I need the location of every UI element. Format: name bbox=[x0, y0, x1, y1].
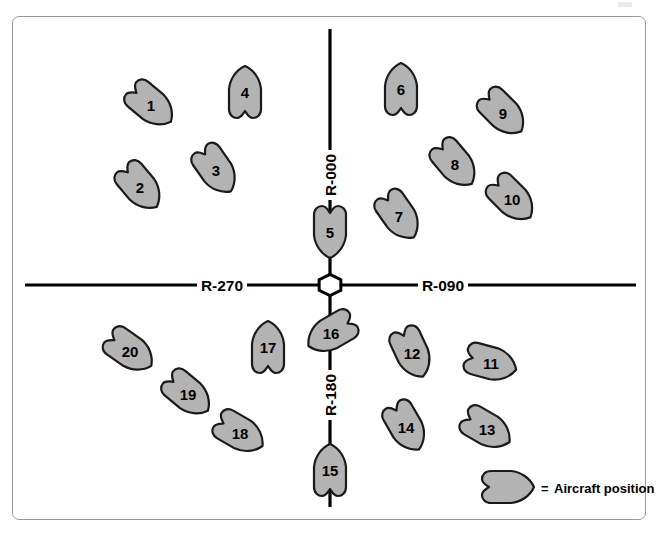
diagram-canvas: R-000R-090R-180R-27012345678910111213141… bbox=[0, 0, 661, 538]
aircraft-number: 14 bbox=[398, 419, 415, 436]
radial-label-r-180: R-180 bbox=[322, 370, 339, 420]
aircraft-number: 20 bbox=[122, 343, 139, 360]
radial-label-r-090: R-090 bbox=[418, 277, 468, 294]
aircraft-symbol-5[interactable]: 5 bbox=[314, 206, 346, 258]
aircraft-symbol-11[interactable]: 11 bbox=[462, 341, 521, 385]
aircraft-number: 19 bbox=[180, 386, 197, 403]
aircraft-symbol-18[interactable]: 18 bbox=[209, 406, 270, 460]
aircraft-number: 5 bbox=[326, 224, 334, 241]
aircraft-number: 8 bbox=[451, 156, 459, 173]
radial-label-text: R-000 bbox=[322, 154, 339, 196]
aircraft-symbol-4[interactable]: 4 bbox=[229, 66, 261, 118]
aircraft-number: 4 bbox=[241, 84, 250, 101]
aircraft-symbol-13[interactable]: 13 bbox=[456, 402, 517, 456]
aircraft-number: 18 bbox=[232, 425, 249, 442]
aircraft-symbol-2[interactable]: 2 bbox=[111, 157, 169, 217]
aircraft-number: 17 bbox=[260, 339, 277, 356]
aircraft-number: 9 bbox=[499, 105, 507, 122]
aircraft-symbol-9[interactable]: 9 bbox=[473, 83, 532, 142]
legend-equals: = bbox=[541, 481, 549, 496]
aircraft-symbol-3[interactable]: 3 bbox=[188, 140, 244, 201]
radial-label-r-270: R-270 bbox=[197, 277, 247, 294]
aircraft-symbol-12[interactable]: 12 bbox=[387, 323, 438, 384]
aircraft-number: 10 bbox=[504, 191, 521, 208]
aircraft-symbol-1[interactable]: 1 bbox=[121, 76, 181, 134]
aircraft-number: 2 bbox=[136, 179, 144, 196]
aircraft-number: 7 bbox=[395, 208, 403, 225]
aircraft-symbol-7[interactable]: 7 bbox=[371, 186, 427, 247]
aircraft-number: 1 bbox=[147, 97, 155, 114]
aircraft-number: 11 bbox=[483, 355, 499, 372]
aircraft-number: 6 bbox=[397, 81, 405, 98]
radial-label-text: R-090 bbox=[422, 277, 464, 294]
legend-aircraft-icon bbox=[482, 471, 534, 503]
aircraft-number: 12 bbox=[404, 345, 421, 362]
aircraft-number: 13 bbox=[479, 421, 496, 438]
radial-label-r-000: R-000 bbox=[322, 150, 339, 200]
aircraft-symbol-15[interactable]: 15 bbox=[314, 444, 346, 496]
aircraft-number: 15 bbox=[322, 462, 339, 479]
vor-radial-diagram: R-000R-090R-180R-27012345678910111213141… bbox=[0, 0, 661, 538]
radial-label-text: R-180 bbox=[322, 374, 339, 416]
legend-label: Aircraft position bbox=[554, 481, 654, 496]
aircraft-symbol-20[interactable]: 20 bbox=[100, 323, 161, 379]
aircraft-symbol-14[interactable]: 14 bbox=[379, 396, 433, 457]
radial-label-text: R-270 bbox=[201, 277, 243, 294]
aircraft-number: 16 bbox=[323, 325, 340, 342]
aircraft-symbol-17[interactable]: 17 bbox=[252, 321, 284, 373]
aircraft-symbol-10[interactable]: 10 bbox=[482, 169, 541, 228]
diagram-svg: R-000R-090R-180R-27012345678910111213141… bbox=[0, 0, 661, 538]
legend-aircraft-shape bbox=[482, 471, 534, 503]
aircraft-symbol-8[interactable]: 8 bbox=[426, 134, 484, 194]
aircraft-symbol-6[interactable]: 6 bbox=[385, 63, 417, 115]
aircraft-symbol-19[interactable]: 19 bbox=[158, 365, 218, 423]
legend: =Aircraft position bbox=[482, 471, 654, 503]
aircraft-number: 3 bbox=[212, 162, 220, 179]
vor-station-hexagon[interactable] bbox=[319, 274, 341, 295]
